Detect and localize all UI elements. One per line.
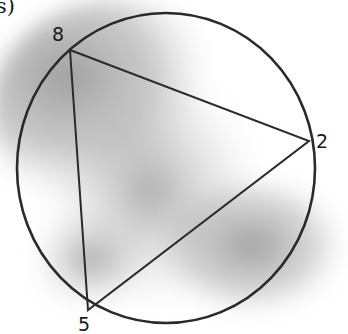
vertex-label-2: 2: [316, 132, 328, 151]
vertex-label-8: 8: [52, 25, 64, 44]
part-label: s): [0, 0, 15, 18]
diagram: s) 8 2 5: [0, 0, 348, 334]
circle-triangle-figure: [0, 0, 348, 334]
vertex-label-5: 5: [78, 315, 90, 334]
